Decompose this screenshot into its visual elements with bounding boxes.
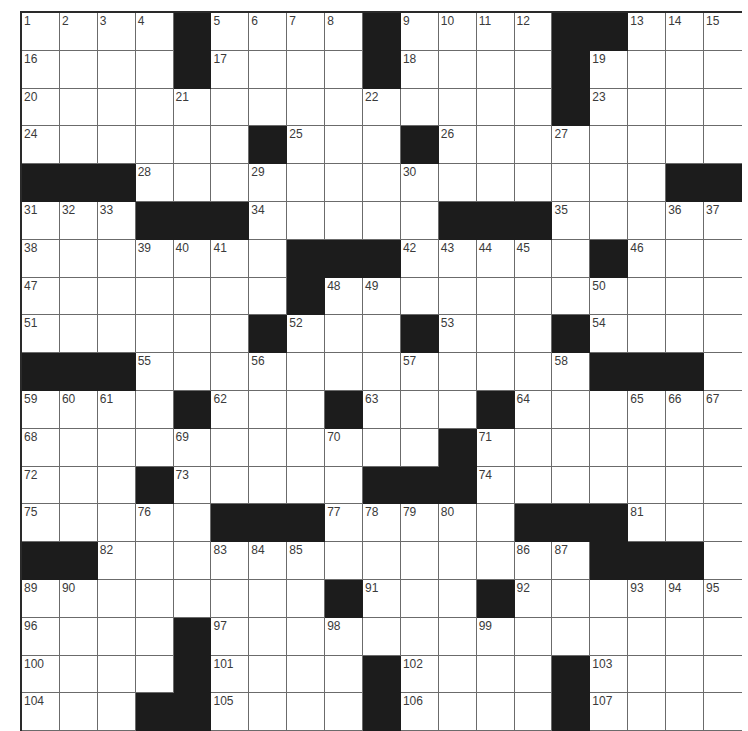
- answer-square[interactable]: [477, 656, 515, 694]
- answer-square[interactable]: [211, 164, 249, 202]
- answer-square[interactable]: [666, 278, 704, 316]
- answer-square[interactable]: [704, 429, 742, 467]
- answer-square[interactable]: 21: [174, 89, 212, 127]
- answer-square[interactable]: 35: [552, 202, 590, 240]
- answer-square[interactable]: [704, 51, 742, 89]
- answer-square[interactable]: [477, 693, 515, 731]
- answer-square[interactable]: [60, 89, 98, 127]
- answer-square[interactable]: [287, 89, 325, 127]
- answer-square[interactable]: [704, 542, 742, 580]
- answer-square[interactable]: [98, 618, 136, 656]
- answer-square[interactable]: [477, 126, 515, 164]
- answer-square[interactable]: 67: [704, 391, 742, 429]
- answer-square[interactable]: [477, 51, 515, 89]
- answer-square[interactable]: 40: [174, 240, 212, 278]
- answer-square[interactable]: [439, 51, 477, 89]
- answer-square[interactable]: [249, 467, 287, 505]
- answer-square[interactable]: [363, 315, 401, 353]
- answer-square[interactable]: 28: [136, 164, 174, 202]
- answer-square[interactable]: [515, 467, 553, 505]
- answer-square[interactable]: 97: [211, 618, 249, 656]
- answer-square[interactable]: 44: [477, 240, 515, 278]
- answer-square[interactable]: [590, 580, 628, 618]
- answer-square[interactable]: [666, 618, 704, 656]
- answer-square[interactable]: [590, 202, 628, 240]
- answer-square[interactable]: 100: [22, 656, 60, 694]
- answer-square[interactable]: [515, 429, 553, 467]
- answer-square[interactable]: 52: [287, 315, 325, 353]
- answer-square[interactable]: [666, 467, 704, 505]
- answer-square[interactable]: [325, 126, 363, 164]
- answer-square[interactable]: 20: [22, 89, 60, 127]
- answer-square[interactable]: [628, 164, 666, 202]
- answer-square[interactable]: 45: [515, 240, 553, 278]
- answer-square[interactable]: [515, 693, 553, 731]
- answer-square[interactable]: 107: [590, 693, 628, 731]
- answer-square[interactable]: [666, 693, 704, 731]
- answer-square[interactable]: [515, 89, 553, 127]
- answer-square[interactable]: [666, 504, 704, 542]
- answer-square[interactable]: [363, 202, 401, 240]
- answer-square[interactable]: 51: [22, 315, 60, 353]
- answer-square[interactable]: 94: [666, 580, 704, 618]
- answer-square[interactable]: [439, 693, 477, 731]
- answer-square[interactable]: 29: [249, 164, 287, 202]
- answer-square[interactable]: [249, 580, 287, 618]
- answer-square[interactable]: [325, 315, 363, 353]
- answer-square[interactable]: 24: [22, 126, 60, 164]
- answer-square[interactable]: [439, 618, 477, 656]
- answer-square[interactable]: 13: [628, 13, 666, 51]
- answer-square[interactable]: 69: [174, 429, 212, 467]
- answer-square[interactable]: [98, 89, 136, 127]
- answer-square[interactable]: 65: [628, 391, 666, 429]
- answer-square[interactable]: [628, 467, 666, 505]
- answer-square[interactable]: 93: [628, 580, 666, 618]
- answer-square[interactable]: [666, 240, 704, 278]
- answer-square[interactable]: [363, 164, 401, 202]
- answer-square[interactable]: 104: [22, 693, 60, 731]
- answer-square[interactable]: [666, 126, 704, 164]
- answer-square[interactable]: [174, 315, 212, 353]
- answer-square[interactable]: 90: [60, 580, 98, 618]
- answer-square[interactable]: 103: [590, 656, 628, 694]
- answer-square[interactable]: 30: [401, 164, 439, 202]
- answer-square[interactable]: [704, 126, 742, 164]
- answer-square[interactable]: 79: [401, 504, 439, 542]
- answer-square[interactable]: 27: [552, 126, 590, 164]
- answer-square[interactable]: 96: [22, 618, 60, 656]
- answer-square[interactable]: [401, 202, 439, 240]
- answer-square[interactable]: 53: [439, 315, 477, 353]
- answer-square[interactable]: [666, 315, 704, 353]
- answer-square[interactable]: [552, 164, 590, 202]
- answer-square[interactable]: 14: [666, 13, 704, 51]
- answer-square[interactable]: [60, 504, 98, 542]
- answer-square[interactable]: 12: [515, 13, 553, 51]
- answer-square[interactable]: [363, 353, 401, 391]
- answer-square[interactable]: [287, 391, 325, 429]
- answer-square[interactable]: 46: [628, 240, 666, 278]
- answer-square[interactable]: 82: [98, 542, 136, 580]
- answer-square[interactable]: [98, 240, 136, 278]
- answer-square[interactable]: 89: [22, 580, 60, 618]
- answer-square[interactable]: 33: [98, 202, 136, 240]
- answer-square[interactable]: 6: [249, 13, 287, 51]
- answer-square[interactable]: [704, 353, 742, 391]
- answer-square[interactable]: 23: [590, 89, 628, 127]
- answer-square[interactable]: 42: [401, 240, 439, 278]
- answer-square[interactable]: [628, 618, 666, 656]
- answer-square[interactable]: 4: [136, 13, 174, 51]
- answer-square[interactable]: [401, 89, 439, 127]
- answer-square[interactable]: [287, 656, 325, 694]
- answer-square[interactable]: [136, 51, 174, 89]
- answer-square[interactable]: [249, 656, 287, 694]
- answer-square[interactable]: [136, 580, 174, 618]
- answer-square[interactable]: 99: [477, 618, 515, 656]
- answer-square[interactable]: 19: [590, 51, 628, 89]
- answer-square[interactable]: [60, 429, 98, 467]
- answer-square[interactable]: 91: [363, 580, 401, 618]
- answer-square[interactable]: [439, 391, 477, 429]
- answer-square[interactable]: [552, 618, 590, 656]
- answer-square[interactable]: [174, 126, 212, 164]
- answer-square[interactable]: 15: [704, 13, 742, 51]
- answer-square[interactable]: [363, 429, 401, 467]
